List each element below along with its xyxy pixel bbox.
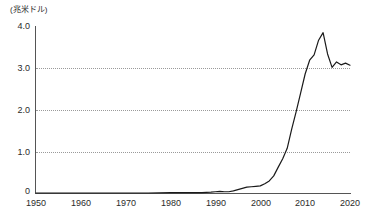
y-tick-label-1: 1.0 — [4, 147, 30, 157]
y-tick-label-2: 2.0 — [4, 105, 30, 115]
gridline-2 — [36, 110, 350, 111]
x-tick-label-2000: 2000 — [244, 198, 278, 208]
x-tick-label-1980: 1980 — [154, 198, 188, 208]
x-axis-line — [35, 193, 351, 194]
gridline-3 — [36, 68, 350, 69]
x-tick-label-1970: 1970 — [109, 198, 143, 208]
x-tick-label-2010: 2010 — [288, 198, 322, 208]
series-line-path — [36, 33, 350, 193]
x-tick-label-2020: 2020 — [333, 198, 366, 208]
gridline-1 — [36, 152, 350, 153]
y-axis-unit-label: (兆米ドル) — [10, 3, 47, 14]
chart-container: (兆米ドル) 4.0 3.0 2.0 1.0 0 1950 1960 1970 … — [0, 0, 366, 219]
y-tick-label-0: 0 — [4, 186, 30, 196]
x-tick-label-1950: 1950 — [19, 198, 53, 208]
y-tick-label-4: 4.0 — [4, 21, 30, 31]
x-tick-label-1990: 1990 — [199, 198, 233, 208]
y-axis-line — [35, 26, 36, 194]
x-tick-label-1960: 1960 — [64, 198, 98, 208]
y-tick-label-3: 3.0 — [4, 63, 30, 73]
